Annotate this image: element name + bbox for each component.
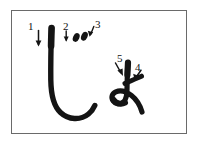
stroke-number-5: 5 [117,53,123,64]
stroke-path-3 [80,31,89,42]
figure-canvas: 1 2 3 4 5 [0,0,199,146]
stroke-path-2 [71,32,80,43]
stroke-number-4: 4 [135,62,141,73]
stroke-number-1: 1 [28,21,34,32]
arrow-5-icon [116,63,124,76]
arrow-2-icon [64,31,69,42]
arrow-3-icon [88,27,94,37]
stroke-number-3: 3 [95,19,101,30]
stroke-path-1 [51,28,96,119]
stroke-number-2: 2 [63,21,69,32]
arrow-1-icon [36,31,42,47]
